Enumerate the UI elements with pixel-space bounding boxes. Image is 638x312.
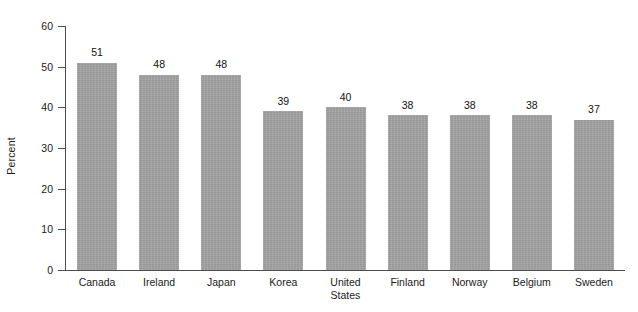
bar [139, 75, 179, 270]
bar-value-label: 37 [560, 104, 628, 115]
bar-group: 37 [574, 26, 614, 270]
bar [388, 115, 428, 270]
y-axis-title: Percent [0, 0, 22, 312]
bar-value-label: 48 [187, 59, 255, 70]
bar [77, 63, 117, 270]
bar-group: 48 [201, 26, 241, 270]
bar-value-label: 40 [312, 92, 380, 103]
y-axis-tick-label: 40 [20, 102, 53, 113]
x-axis-category-label: Sweden [557, 276, 631, 289]
y-axis-tick-label: 20 [20, 183, 53, 194]
y-axis-tick-label: 0 [20, 265, 53, 276]
y-axis-tick-label: 50 [20, 61, 53, 72]
bar-group: 38 [512, 26, 552, 270]
y-axis-tick-label: 60 [20, 21, 53, 32]
bar [326, 107, 366, 270]
bar-value-label: 39 [249, 96, 317, 107]
bar-value-label: 38 [374, 100, 442, 111]
plot-area: 514848394038383837 [66, 26, 625, 270]
bar-group: 40 [326, 26, 366, 270]
y-axis-tick-label: 30 [20, 143, 53, 154]
bar-group: 51 [77, 26, 117, 270]
bar-chart: Percent 0102030405060 514848394038383837… [0, 0, 638, 312]
bar-group: 39 [263, 26, 303, 270]
bar-value-label: 51 [63, 47, 131, 58]
bar [201, 75, 241, 270]
bar [574, 120, 614, 270]
bar [450, 115, 490, 270]
bar-value-label: 48 [125, 59, 193, 70]
y-axis-tick-label: 10 [20, 224, 53, 235]
bar-value-label: 38 [498, 100, 566, 111]
bar-group: 38 [450, 26, 490, 270]
x-axis-line [65, 270, 625, 271]
bar-group: 38 [388, 26, 428, 270]
x-axis-category-labels: CanadaIrelandJapanKoreaUnited StatesFinl… [66, 276, 625, 310]
bar [512, 115, 552, 270]
bar-value-label: 38 [436, 100, 504, 111]
bar-group: 48 [139, 26, 179, 270]
bar [263, 111, 303, 270]
